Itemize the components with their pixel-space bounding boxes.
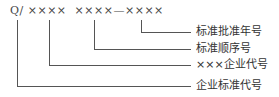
standard-code-text: Q/ ×××× ××××—×××× <box>10 4 164 17</box>
label-sequence-number: 标准顺序号 <box>196 43 251 55</box>
label-enterprise-code: ×××企业代号 <box>196 59 268 71</box>
connector-year-horizontal <box>141 32 191 33</box>
connector-sequence-horizontal <box>94 49 191 50</box>
label-enterprise-standard-code: 企业标准代号 <box>196 80 262 92</box>
connector-year-vertical <box>141 20 142 32</box>
connector-sequence-vertical <box>94 20 95 49</box>
connector-standard-horizontal <box>17 86 191 87</box>
connector-enterprise-horizontal <box>49 65 191 66</box>
connector-enterprise-vertical <box>49 20 50 65</box>
connector-standard-vertical <box>17 20 18 86</box>
label-approval-year: 标准批准年号 <box>196 26 262 38</box>
